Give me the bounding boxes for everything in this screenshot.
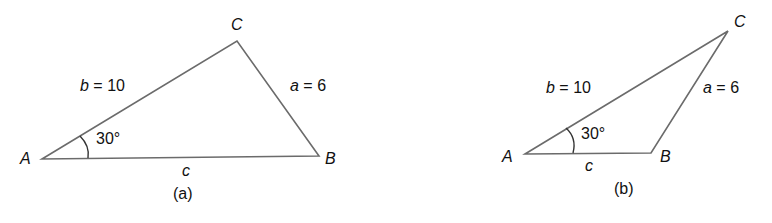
side-b-eq: =	[93, 77, 102, 94]
side-b-value: 10	[107, 77, 125, 94]
side-a-label-a: a = 6	[290, 78, 326, 94]
side-a-eq: =	[303, 77, 312, 94]
angle-arc-b	[566, 128, 574, 153]
side-a-value: 6	[730, 79, 739, 96]
side-a-label-b: a = 6	[703, 80, 739, 96]
vertex-label-b-C: C	[734, 14, 746, 30]
caption-b: (b)	[614, 181, 634, 197]
side-a-var: a	[703, 79, 712, 96]
angle-label-a: 30°	[96, 131, 120, 147]
side-b-var: b	[80, 77, 89, 94]
triangle-diagrams	[0, 0, 772, 223]
side-b-var: b	[546, 79, 555, 96]
side-a-eq: =	[716, 79, 725, 96]
angle-arc-a	[80, 136, 88, 158]
side-b-label-a: b = 10	[80, 78, 125, 94]
side-b-label-b: b = 10	[546, 80, 591, 96]
side-a-value: 6	[317, 77, 326, 94]
side-b-eq: =	[559, 79, 568, 96]
side-b-value: 10	[573, 79, 591, 96]
ambiguous-case-triangles-figure: C A B b = 10 a = 6 30° c (a) C A B b = 1…	[0, 0, 772, 223]
vertex-label-b-B: B	[660, 149, 671, 165]
vertex-label-a-B: B	[325, 151, 336, 167]
side-c-label-a: c	[182, 163, 190, 179]
side-a-var: a	[290, 77, 299, 94]
caption-a: (a)	[173, 186, 193, 202]
vertex-label-a-C: C	[231, 17, 243, 33]
angle-label-b: 30°	[581, 126, 605, 142]
vertex-label-b-A: A	[502, 149, 513, 165]
side-c-label-b: c	[585, 158, 593, 174]
vertex-label-a-A: A	[20, 151, 31, 167]
